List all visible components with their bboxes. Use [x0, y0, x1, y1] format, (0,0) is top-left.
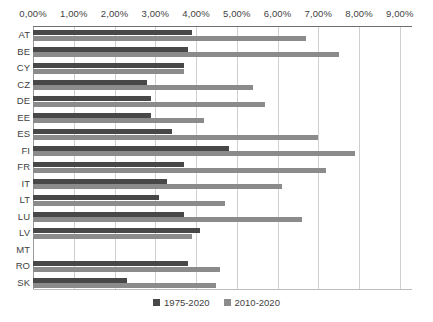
bar-row	[33, 27, 412, 44]
bar-ee-series-2	[33, 118, 204, 123]
bar-be-series-2	[33, 52, 339, 57]
x-tick-label-4: 4,00%	[182, 8, 209, 19]
bar-row	[33, 110, 412, 127]
bar-lu-series-2	[33, 217, 302, 222]
bar-fi-series-1	[33, 146, 229, 151]
bar-be-series-1	[33, 47, 188, 52]
y-tick-label-fr: FR	[17, 161, 30, 172]
x-tick-label-8: 8,00%	[345, 8, 372, 19]
bar-lu-series-1	[33, 212, 184, 217]
bar-rows	[33, 27, 412, 289]
bar-ro-series-1	[33, 261, 188, 266]
y-tick-label-lt: LT	[20, 194, 30, 205]
bar-row	[33, 77, 412, 94]
legend-swatch-icon-1	[153, 299, 160, 306]
bar-de-series-1	[33, 96, 151, 101]
y-tick-label-cz: CZ	[17, 78, 30, 89]
x-tick-label-2: 2,00%	[101, 8, 128, 19]
bar-es-series-2	[33, 135, 318, 140]
bar-row	[33, 258, 412, 275]
y-axis-category-labels: ATBECYCZDEEEESFIFRITLTLULVMTROSK	[0, 26, 30, 290]
x-tick-label-3: 3,00%	[142, 8, 169, 19]
bar-lv-series-2	[33, 234, 192, 239]
y-tick-label-cy: CY	[17, 62, 30, 73]
x-tick-label-7: 7,00%	[305, 8, 332, 19]
bar-sk-series-1	[33, 278, 127, 283]
y-tick-label-be: BE	[17, 45, 30, 56]
bar-it-series-1	[33, 179, 167, 184]
y-tick-label-fi: FI	[22, 144, 30, 155]
bar-at-series-2	[33, 36, 306, 41]
y-tick-label-ee: EE	[17, 111, 30, 122]
bar-cy-series-1	[33, 63, 184, 68]
bar-row	[33, 176, 412, 193]
bar-es-series-1	[33, 129, 172, 134]
chart-legend: 1975-20202010-2020	[0, 297, 433, 308]
y-tick-label-mt: MT	[16, 243, 30, 254]
bar-fr-series-2	[33, 168, 326, 173]
bar-de-series-2	[33, 102, 265, 107]
legend-label-2: 2010-2020	[235, 297, 280, 308]
bar-row	[33, 275, 412, 292]
y-tick-label-ro: RO	[16, 260, 30, 271]
bar-ee-series-1	[33, 113, 151, 118]
bar-chart: 0,00%1,00%2,00%3,00%4,00%5,00%6,00%7,00%…	[0, 0, 433, 322]
x-tick-label-5: 5,00%	[223, 8, 250, 19]
y-tick-label-lv: LV	[19, 227, 30, 238]
bar-sk-series-2	[33, 283, 216, 288]
y-tick-label-at: AT	[19, 29, 30, 40]
bar-lt-series-2	[33, 201, 225, 206]
bar-row	[33, 192, 412, 209]
y-tick-label-es: ES	[17, 128, 30, 139]
bar-at-series-1	[33, 30, 192, 35]
bar-cz-series-2	[33, 85, 253, 90]
bar-ro-series-2	[33, 267, 220, 272]
x-tick-label-9: 9,00%	[386, 8, 413, 19]
x-tick-label-6: 6,00%	[264, 8, 291, 19]
bar-cz-series-1	[33, 80, 147, 85]
bar-row	[33, 93, 412, 110]
bar-row	[33, 225, 412, 242]
y-tick-label-sk: SK	[17, 276, 30, 287]
bar-row	[33, 44, 412, 61]
bar-lv-series-1	[33, 228, 200, 233]
x-tick-label-0: 0,00%	[19, 8, 46, 19]
legend-swatch-icon-2	[224, 299, 231, 306]
x-axis-tick-labels: 0,00%1,00%2,00%3,00%4,00%5,00%6,00%7,00%…	[0, 8, 433, 24]
bar-row	[33, 143, 412, 160]
legend-label-1: 1975-2020	[164, 297, 209, 308]
bar-fr-series-1	[33, 162, 184, 167]
y-tick-label-lu: LU	[18, 210, 30, 221]
bar-it-series-2	[33, 184, 282, 189]
bar-row	[33, 126, 412, 143]
bar-cy-series-2	[33, 69, 184, 74]
plot-area	[33, 26, 412, 290]
bar-row	[33, 159, 412, 176]
bar-row	[33, 242, 412, 259]
x-tick-label-1: 1,00%	[60, 8, 87, 19]
y-tick-label-it: IT	[22, 177, 30, 188]
legend-item-2[interactable]: 2010-2020	[224, 297, 280, 308]
bar-fi-series-2	[33, 151, 355, 156]
bar-row	[33, 209, 412, 226]
legend-item-1[interactable]: 1975-2020	[153, 297, 209, 308]
bar-lt-series-1	[33, 195, 159, 200]
bar-row	[33, 60, 412, 77]
y-tick-label-de: DE	[17, 95, 30, 106]
